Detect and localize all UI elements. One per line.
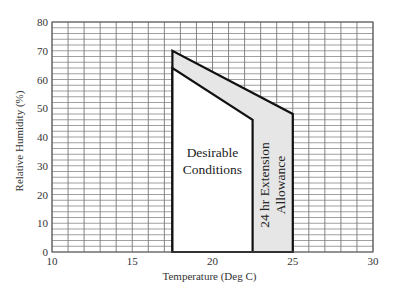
y-tick-label: 0 (43, 246, 49, 258)
y-axis-ticks: 01020304050607080 (37, 16, 49, 258)
x-axis-label: Temperature (Deg C) (163, 270, 257, 283)
x-tick-label: 20 (207, 255, 219, 267)
y-axis-label: Relative Humidity (%) (13, 90, 26, 191)
x-tick-label: 30 (368, 255, 380, 267)
extension-allowance-label: Allowance (273, 156, 288, 214)
y-tick-label: 20 (37, 189, 49, 201)
y-tick-label: 70 (37, 45, 49, 57)
x-axis-ticks: 1015202530 (47, 255, 380, 267)
extension-allowance-label: 24 hr Extension (257, 142, 272, 228)
y-tick-label: 30 (37, 160, 49, 172)
y-tick-label: 60 (37, 74, 49, 86)
chart: 1015202530 01020304050607080 Temperature… (0, 0, 394, 300)
desirable-conditions-label: Desirable (187, 145, 239, 160)
desirable-conditions-label: Conditions (183, 162, 242, 177)
y-tick-label: 10 (37, 217, 49, 229)
y-tick-label: 80 (37, 16, 49, 28)
y-tick-label: 50 (37, 102, 49, 114)
x-tick-label: 10 (47, 255, 59, 267)
y-tick-label: 40 (37, 131, 49, 143)
x-tick-label: 15 (127, 255, 139, 267)
x-tick-label: 25 (287, 255, 299, 267)
